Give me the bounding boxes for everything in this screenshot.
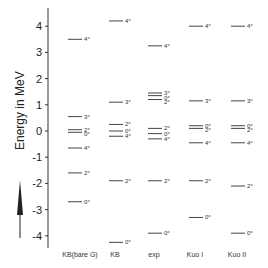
y-axis-ticks: 43210-1-2-3-4	[32, 20, 48, 242]
energy-level-label: 2⁺	[164, 99, 170, 105]
energy-level-label: 4⁺	[247, 23, 253, 29]
energy-level-label: 3⁺	[84, 114, 90, 120]
y-tick-label: -3	[32, 204, 42, 216]
energy-level-label: 0⁺	[205, 214, 211, 220]
level-column-kuo-ii: 4⁺3⁺0⁺2⁺4⁺2⁺0⁺Kuo II	[228, 23, 253, 258]
y-axis-title: Energy in MeV	[13, 71, 27, 150]
energy-level-label: 4⁺	[84, 145, 90, 151]
energy-level-label: 2⁺	[84, 170, 90, 176]
energy-level-label: 0⁺	[247, 230, 253, 236]
y-axis-title-group: Energy in MeV	[13, 71, 27, 150]
energy-level-label: 4⁺	[125, 133, 131, 139]
y-tick-label: 0	[36, 125, 42, 137]
column-label: Kuo II	[228, 251, 246, 258]
energy-level-label: 4⁺	[125, 18, 131, 24]
energy-level-label: 2⁺	[125, 178, 131, 184]
energy-level-label: 2⁺	[247, 183, 253, 189]
column-label: exp	[148, 251, 159, 259]
y-tick-label: 3	[36, 46, 42, 58]
y-tick-label: -2	[32, 177, 42, 189]
y-tick-label: -4	[32, 230, 42, 242]
level-scheme-diagram: 43210-1-2-3-4 Energy in MeV 4⁺3⁺2⁺0⁺4⁺2⁺…	[0, 0, 268, 268]
y-tick-label: 2	[36, 73, 42, 85]
energy-arrow-icon	[17, 180, 23, 238]
energy-level-label: 2⁺	[205, 127, 211, 133]
energy-level-label: 4⁺	[164, 136, 170, 142]
column-label: KB(bare G)	[62, 251, 97, 259]
level-column-exp: 4⁺3⁺0⁺2⁺2⁺0⁺4⁺2⁺0⁺exp	[148, 43, 170, 259]
y-tick-label: 1	[36, 99, 42, 111]
energy-level-label: 2⁺	[247, 127, 253, 133]
y-tick-label: -1	[32, 151, 42, 163]
energy-level-label: 2⁺	[125, 121, 131, 127]
energy-level-label: 2⁺	[164, 178, 170, 184]
energy-level-label: 2⁺	[205, 178, 211, 184]
y-tick-label: 4	[36, 20, 42, 32]
energy-level-label: 0⁺	[164, 230, 170, 236]
column-label: Kuo I	[187, 251, 203, 258]
energy-level-label: 4⁺	[164, 43, 170, 49]
column-label: KB	[110, 251, 120, 258]
level-column-kuo-i: 4⁺3⁺0⁺2⁺4⁺2⁺0⁺Kuo I	[187, 23, 212, 258]
energy-level-label: 4⁺	[205, 140, 211, 146]
level-column-kb-bare-g: 4⁺3⁺2⁺0⁺4⁺2⁺0⁺KB(bare G)	[62, 36, 97, 259]
energy-level-label: 0⁺	[84, 131, 90, 137]
level-columns: 4⁺3⁺2⁺0⁺4⁺2⁺0⁺KB(bare G)4⁺3⁺2⁺0⁺4⁺2⁺0⁺KB…	[62, 18, 253, 259]
energy-level-label: 4⁺	[84, 36, 90, 42]
energy-level-label: 3⁺	[125, 99, 131, 105]
energy-level-label: 3⁺	[205, 98, 211, 104]
energy-level-label: 4⁺	[247, 140, 253, 146]
energy-level-label: 0⁺	[125, 239, 131, 245]
level-column-kb: 4⁺3⁺2⁺0⁺4⁺2⁺0⁺KB	[109, 18, 131, 258]
energy-level-label: 4⁺	[205, 23, 211, 29]
energy-level-label: 3⁺	[247, 98, 253, 104]
energy-level-label: 0⁺	[84, 199, 90, 205]
